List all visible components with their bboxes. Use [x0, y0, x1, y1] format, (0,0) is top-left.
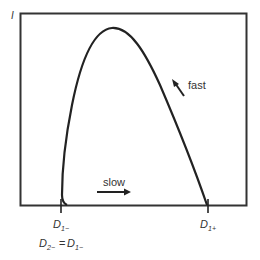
slow-arrow-icon — [97, 189, 131, 196]
svg-text:D: D — [53, 218, 61, 230]
svg-text:D: D — [200, 218, 208, 230]
equation-d2-equals-d1: D 2− = D 1− — [39, 237, 83, 251]
plot-frame — [21, 14, 247, 206]
svg-text:1−: 1− — [61, 225, 69, 232]
label-d1-plus: D 1+ — [200, 218, 216, 232]
fast-arrow-icon — [172, 79, 184, 96]
svg-text:2−: 2− — [46, 244, 55, 251]
slow-label: slow — [103, 176, 125, 188]
svg-text:1−: 1− — [75, 244, 83, 251]
svg-text:=: = — [59, 237, 65, 249]
svg-text:1+: 1+ — [208, 225, 216, 232]
svg-text:D: D — [67, 237, 75, 249]
label-d1-minus: D 1− — [53, 218, 69, 232]
svg-text:D: D — [39, 237, 47, 249]
trajectory-curve — [62, 28, 207, 205]
fast-label: fast — [188, 79, 206, 91]
y-axis-label: I — [11, 10, 14, 21]
diagram-canvas: I fast slow D 1− D 1+ D 2− = D 1− — [0, 0, 260, 260]
